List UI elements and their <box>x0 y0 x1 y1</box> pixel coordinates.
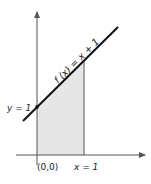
x-bound-label: x = 1 <box>73 162 98 172</box>
origin-label: (0,0) <box>37 162 58 172</box>
y-intercept-point <box>35 105 39 109</box>
area-under-line-diagram: f (x) = x + 1 y = 1 (0,0) x = 1 <box>0 0 151 184</box>
y-intercept-label: y = 1 <box>6 103 31 113</box>
